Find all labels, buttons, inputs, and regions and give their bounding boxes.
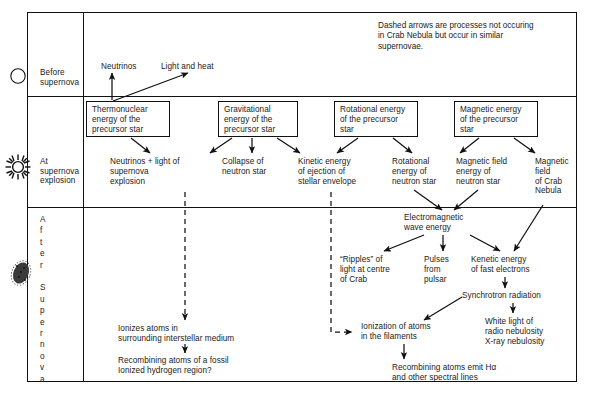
- nebula-blob-icon: [8, 256, 34, 294]
- node-pulses-from-pulsar: Pulses from pulsar: [424, 255, 449, 284]
- node-light-and-heat: Light and heat: [161, 62, 214, 72]
- node-ionization-of-atoms-filaments: Ionization of atoms in the filaments: [361, 322, 431, 342]
- node-white-light-nebulosity: White light of radio nebulosity X-ray ne…: [485, 317, 545, 346]
- box-gravitational-energy: Gravitational energy of the precursor st…: [218, 101, 298, 137]
- crab-nebula-energy-flow-diagram: Dashed arrows are processes not occuring…: [0, 0, 589, 395]
- node-collapse-neutron-star: Collapse of neutron star: [222, 157, 266, 177]
- node-recombining-atoms-halpha: Recombining atoms emit Hα and other spec…: [392, 363, 496, 383]
- starburst-icon: [3, 152, 33, 186]
- box-thermonuclear-energy: Thermonuclear energy of the precursor st…: [86, 101, 170, 137]
- band-divider-before-at: [27, 96, 577, 97]
- node-synchrotron-radiation: Synchrotron radiation: [462, 291, 541, 301]
- box-magnetic-energy-precursor: Magnetic energy of the precursor star: [454, 101, 538, 137]
- node-kinetic-energy-ejection: Kinetic energy of ejection of stellar en…: [298, 157, 356, 186]
- node-magnetic-field-crab-nebula: Magnetic field of Crab Nebula: [535, 157, 569, 196]
- node-kenetic-energy-fast-electrons: Kenetic energy of fast electrons: [471, 255, 530, 275]
- node-magnetic-field-energy-neutron-star: Magnetic field energy of neutron star: [456, 157, 507, 186]
- stage-label-after: A f t e r S u p e r n o v a: [40, 214, 45, 385]
- node-neutrinos-plus-light: Neutrinos + light of supernova explosion: [110, 157, 180, 186]
- legend-note: Dashed arrows are processes not occuring…: [378, 21, 568, 52]
- band-divider-at-after: [27, 207, 577, 208]
- stage-label-before: Before supernova: [40, 68, 79, 87]
- stage-label-divider: [83, 12, 84, 382]
- circle-star-icon: [8, 66, 28, 90]
- box-rotational-energy-precursor: Rotational energy of the precursor star: [334, 101, 418, 137]
- stage-label-at-explosion: At supernova explosion: [40, 157, 79, 186]
- node-recombining-atoms-fossil: Recombining atoms of a fossil Ionized hy…: [118, 356, 229, 376]
- node-rotational-energy-neutron-star: Rotational energy of neutron star: [392, 157, 436, 186]
- node-electromagnetic-wave-energy: Electromagnetic wave energy: [404, 213, 463, 233]
- node-neutrinos-top: Neutrinos: [101, 62, 137, 72]
- node-ripples-of-light: “Ripples” of light at centre of Crab: [340, 255, 390, 284]
- node-ionizes-atoms-ism: Ionizes atoms in surrounding interstella…: [118, 324, 234, 344]
